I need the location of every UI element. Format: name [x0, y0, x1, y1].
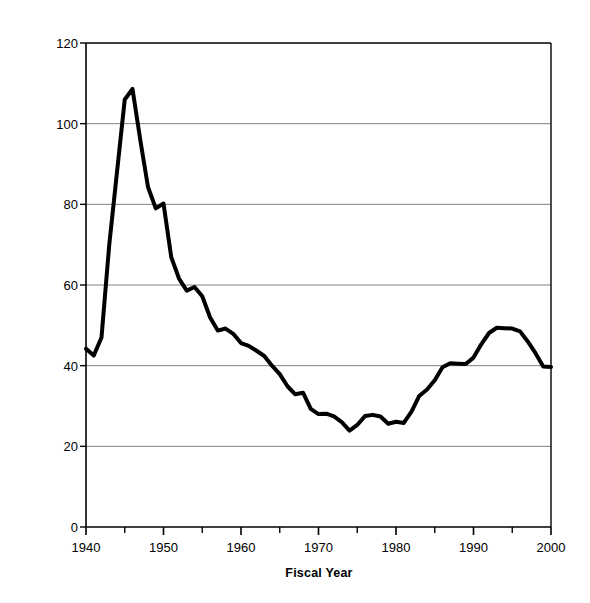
y-tick-label: 0: [26, 520, 78, 535]
y-tick-label: 40: [26, 358, 78, 373]
y-axis-ticks: [80, 43, 86, 527]
x-axis-title: Fiscal Year: [86, 566, 552, 580]
data-series-line: [86, 89, 551, 431]
y-tick-label: 100: [26, 116, 78, 131]
x-axis-ticks: [86, 527, 551, 535]
y-tick-label: 20: [26, 439, 78, 454]
x-tick-label: 1960: [227, 540, 256, 555]
x-tick-label: 1950: [149, 540, 178, 555]
y-tick-label: 80: [26, 197, 78, 212]
y-tick-label: 120: [26, 36, 78, 51]
chart-container: Percent of GDP Fiscal Year 0204060801001…: [0, 0, 590, 603]
y-tick-label: 60: [26, 278, 78, 293]
x-tick-label: 1970: [304, 540, 333, 555]
x-tick-label: 2000: [537, 540, 566, 555]
gridlines: [86, 124, 551, 447]
x-tick-label: 1940: [72, 540, 101, 555]
x-tick-label: 1990: [459, 540, 488, 555]
x-tick-label: 1980: [382, 540, 411, 555]
line-chart-plot: [0, 0, 590, 603]
